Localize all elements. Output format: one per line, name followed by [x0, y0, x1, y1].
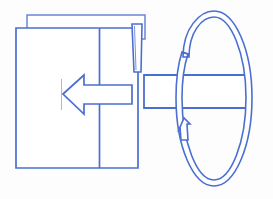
line-art-diagram	[0, 0, 273, 199]
diagram-canvas	[0, 0, 273, 199]
hinged-flap	[132, 24, 142, 72]
horizontal-bar-element	[144, 75, 249, 108]
